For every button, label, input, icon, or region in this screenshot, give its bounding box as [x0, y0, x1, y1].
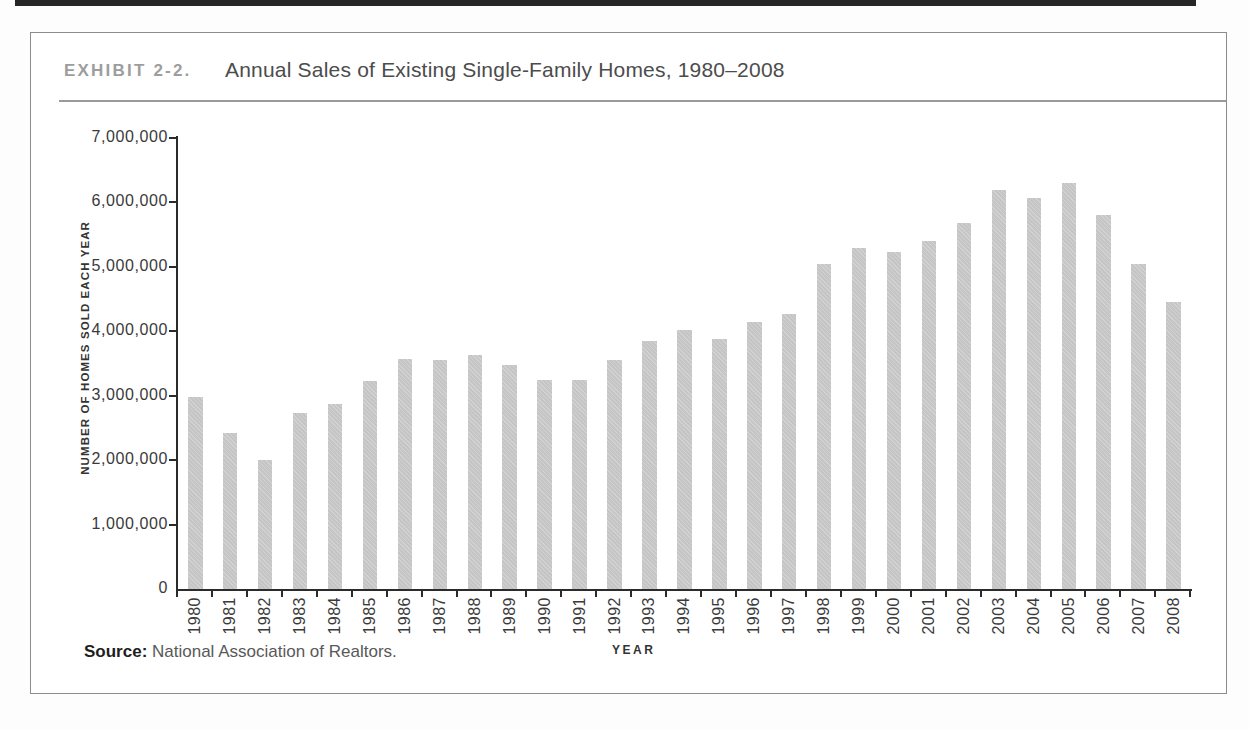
- bar-1996: [747, 322, 762, 589]
- x-tick-label: 1989: [501, 597, 519, 635]
- bar-1984: [328, 404, 343, 589]
- x-axis-tick: [840, 591, 842, 597]
- x-tick-label: 1998: [815, 597, 833, 635]
- bar-1990: [537, 380, 552, 589]
- bar-1988: [468, 355, 483, 589]
- x-tick-label: 1984: [326, 597, 344, 635]
- x-tick-label: 1986: [396, 597, 414, 635]
- x-axis-tick: [211, 591, 213, 597]
- x-axis-tick: [525, 591, 527, 597]
- x-tick-label: 1985: [361, 597, 379, 635]
- x-axis-tick: [805, 591, 807, 597]
- bar-1981: [223, 433, 238, 589]
- bar-1987: [433, 360, 448, 589]
- x-tick-label: 1980: [186, 597, 204, 635]
- bar-1994: [677, 330, 692, 589]
- bar-2007: [1131, 264, 1146, 589]
- x-tick-label: 1987: [431, 597, 449, 635]
- header-rule: [59, 100, 1226, 102]
- y-tick-label: 0: [58, 579, 168, 597]
- x-tick-label: 2008: [1165, 597, 1183, 635]
- y-tick-label: 5,000,000: [58, 257, 168, 275]
- y-tick-label: 7,000,000: [58, 128, 168, 146]
- bar-2000: [887, 252, 902, 589]
- x-tick-label: 1997: [780, 597, 798, 635]
- y-axis-tick: [169, 524, 176, 526]
- bar-2002: [957, 223, 972, 589]
- bar-2006: [1096, 215, 1111, 589]
- bar-1997: [782, 314, 797, 589]
- y-tick-label: 6,000,000: [58, 192, 168, 210]
- bar-1998: [817, 264, 832, 589]
- x-axis-tick: [700, 591, 702, 597]
- source-label: Source:: [84, 642, 147, 661]
- bar-2005: [1062, 183, 1077, 589]
- x-tick-label: 1994: [675, 597, 693, 635]
- x-axis-tick: [735, 591, 737, 597]
- x-tick-label: 2006: [1095, 597, 1113, 635]
- x-tick-label: 2005: [1060, 597, 1078, 635]
- bar-2001: [922, 241, 937, 589]
- exhibit-label: EXHIBIT 2-2.: [64, 61, 191, 81]
- exhibit-panel: [30, 32, 1227, 694]
- x-tick-label: 1992: [606, 597, 624, 635]
- x-axis-tick: [630, 591, 632, 597]
- x-axis-tick: [595, 591, 597, 597]
- x-tick-label: 2007: [1130, 597, 1148, 635]
- y-tick-label: 3,000,000: [58, 386, 168, 404]
- y-axis-tick: [169, 459, 176, 461]
- x-axis-tick: [665, 591, 667, 597]
- x-axis-tick: [1050, 591, 1052, 597]
- x-axis-tick: [560, 591, 562, 597]
- x-axis-tick: [875, 591, 877, 597]
- bar-1980: [188, 397, 203, 589]
- x-axis-tick: [421, 591, 423, 597]
- x-axis-tick: [910, 591, 912, 597]
- x-tick-label: 1991: [571, 597, 589, 635]
- bar-1993: [642, 341, 657, 589]
- page: EXHIBIT 2-2. Annual Sales of Existing Si…: [0, 0, 1249, 729]
- x-tick-label: 1996: [745, 597, 763, 635]
- x-axis-title: YEAR: [612, 643, 655, 657]
- y-axis-tick: [169, 201, 176, 203]
- bar-1992: [607, 360, 622, 589]
- x-tick-label: 1999: [850, 597, 868, 635]
- bar-1982: [258, 460, 273, 589]
- x-axis-tick: [1015, 591, 1017, 597]
- x-axis-tick: [1154, 591, 1156, 597]
- bar-2004: [1027, 198, 1042, 589]
- bar-1989: [502, 365, 517, 589]
- x-tick-label: 1981: [221, 597, 239, 635]
- bar-1986: [398, 359, 413, 589]
- x-tick-label: 1983: [291, 597, 309, 635]
- y-axis-tick: [169, 395, 176, 397]
- y-axis-tick: [169, 330, 176, 332]
- source-text: National Association of Realtors.: [147, 642, 396, 661]
- x-axis-tick: [281, 591, 283, 597]
- x-tick-label: 1993: [640, 597, 658, 635]
- y-tick-label: 1,000,000: [58, 515, 168, 533]
- x-axis-tick: [386, 591, 388, 597]
- bar-2008: [1166, 302, 1181, 589]
- bar-1995: [712, 339, 727, 589]
- page-edge-bar: [15, 0, 1196, 6]
- x-axis-tick: [980, 591, 982, 597]
- x-axis-tick: [176, 591, 178, 597]
- x-tick-label: 2002: [955, 597, 973, 635]
- x-axis-tick: [770, 591, 772, 597]
- bar-1983: [293, 413, 308, 589]
- x-tick-label: 2003: [990, 597, 1008, 635]
- x-tick-label: 1982: [256, 597, 274, 635]
- y-axis-tick: [169, 266, 176, 268]
- x-tick-label: 1995: [710, 597, 728, 635]
- bar-1985: [363, 381, 378, 589]
- x-axis-tick: [456, 591, 458, 597]
- x-axis-tick: [1084, 591, 1086, 597]
- bar-2003: [992, 190, 1007, 589]
- x-axis-tick: [1189, 591, 1191, 597]
- x-axis-tick: [945, 591, 947, 597]
- source-line: Source: National Association of Realtors…: [84, 642, 397, 662]
- y-tick-label: 2,000,000: [58, 450, 168, 468]
- y-axis-tick: [169, 137, 176, 139]
- x-axis-tick: [351, 591, 353, 597]
